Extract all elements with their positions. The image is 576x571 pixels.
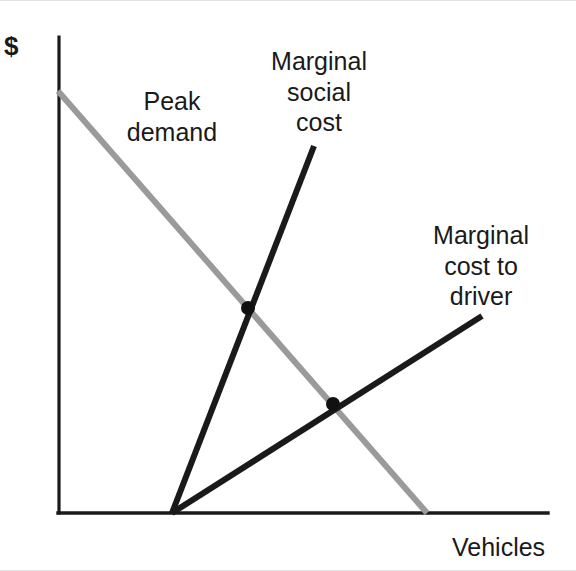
y-axis-label: $ <box>4 31 18 63</box>
x-axis-label: Vehicles <box>452 532 545 563</box>
intersection-demand-mcd-dot <box>326 397 340 411</box>
marginal-social-cost-curve <box>172 146 314 513</box>
marginal-social-cost-label: Marginal social cost <box>259 46 379 138</box>
economics-diagram: $ Vehicles Peak demand Marginal social c… <box>0 0 576 571</box>
marginal-cost-to-driver-curve <box>172 316 482 513</box>
peak-demand-label: Peak demand <box>108 86 236 147</box>
peak-demand-curve <box>58 91 427 513</box>
marginal-cost-to-driver-label: Marginal cost to driver <box>411 220 551 312</box>
intersection-demand-msc-dot <box>241 301 255 315</box>
